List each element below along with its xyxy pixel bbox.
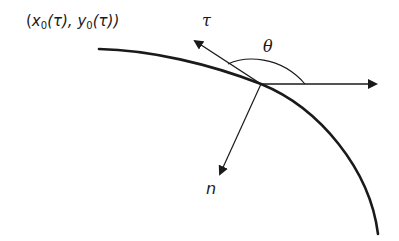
point-y-arg: (τ)) bbox=[93, 12, 120, 30]
point-coordinate-label: (x0(τ), y0(τ)) bbox=[26, 14, 119, 31]
point-y: y bbox=[77, 12, 86, 30]
tangent-label: τ bbox=[202, 13, 211, 29]
angle-arc bbox=[228, 59, 305, 84]
angle-label: θ bbox=[263, 39, 273, 55]
diagram-svg bbox=[0, 0, 399, 241]
normal-label: n bbox=[206, 181, 216, 197]
tangent-arrow bbox=[195, 41, 261, 84]
point-x-arg: (τ), bbox=[47, 12, 77, 30]
boundary-curve bbox=[99, 49, 378, 234]
normal-arrow bbox=[220, 84, 261, 174]
point-x: x bbox=[32, 12, 41, 30]
diagram-canvas: (x0(τ), y0(τ)) τ θ n bbox=[0, 0, 399, 241]
